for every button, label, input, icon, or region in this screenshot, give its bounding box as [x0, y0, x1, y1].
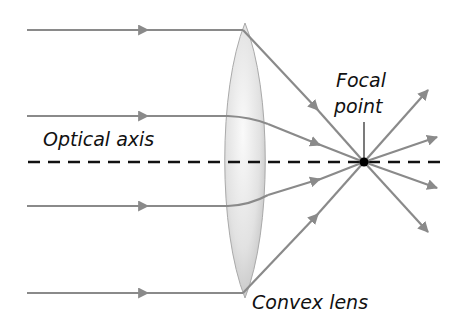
- incoming-ray-3: [27, 162, 364, 206]
- optical-axis-label: Optical axis: [43, 128, 154, 150]
- convex-lens-label: Convex lens: [252, 291, 368, 313]
- lens-diagram: [0, 0, 459, 327]
- focal-point-label-line1: Focal: [336, 69, 386, 91]
- convex-lens: [225, 23, 266, 298]
- focal-point-dot: [360, 158, 369, 167]
- focal-point-label-line2: point: [334, 95, 382, 117]
